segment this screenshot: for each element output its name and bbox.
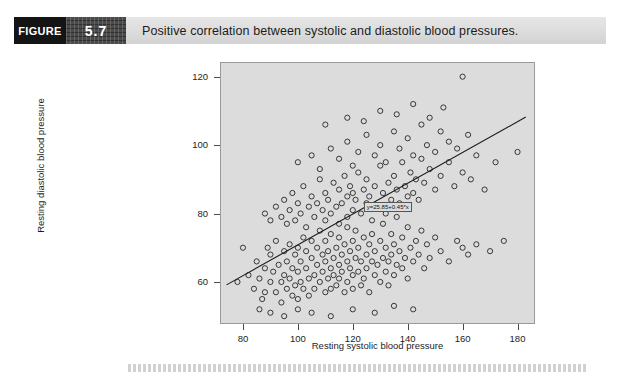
x-tick-mark	[353, 324, 354, 330]
plot-area	[220, 62, 535, 324]
x-tick-label: 80	[223, 333, 263, 344]
y-tick-mark	[214, 145, 220, 146]
figure-label-text: FIGURE	[18, 25, 61, 37]
x-tick-mark	[518, 324, 519, 330]
y-axis-title: Resting diastolic blood pressure	[35, 66, 46, 266]
x-tick-label: 100	[278, 333, 318, 344]
figure-number-text: 5.7	[85, 23, 107, 39]
y-tick-label: 120	[174, 71, 208, 82]
x-tick-mark	[243, 324, 244, 330]
x-tick-mark	[298, 324, 299, 330]
x-tick-label: 160	[443, 333, 483, 344]
y-tick-mark	[214, 282, 220, 283]
figure-label-block: FIGURE	[14, 17, 66, 44]
x-tick-label: 180	[498, 333, 538, 344]
figure-number-block: 5.7	[66, 17, 126, 44]
y-tick-label: 60	[174, 276, 208, 287]
y-tick-mark	[214, 214, 220, 215]
scatter-chart: Resting diastolic blood pressure Resting…	[0, 52, 620, 352]
regression-equation-annotation: y=25.85+0.45*x	[364, 202, 412, 212]
x-axis-title: Resting systolic blood pressure	[220, 340, 535, 351]
y-tick-label: 100	[174, 139, 208, 150]
figure-caption-text: Positive correlation between systolic an…	[142, 24, 518, 38]
figure-caption-bar: Positive correlation between systolic an…	[126, 17, 606, 44]
y-tick-label: 80	[174, 208, 208, 219]
y-tick-mark	[214, 77, 220, 78]
x-tick-mark	[463, 324, 464, 330]
figure-header: FIGURE 5.7 Positive correlation between …	[14, 17, 606, 44]
x-tick-label: 140	[388, 333, 428, 344]
x-tick-label: 120	[333, 333, 373, 344]
plot-canvas	[221, 63, 534, 323]
x-tick-mark	[408, 324, 409, 330]
decorative-bottom-strip	[128, 364, 586, 372]
